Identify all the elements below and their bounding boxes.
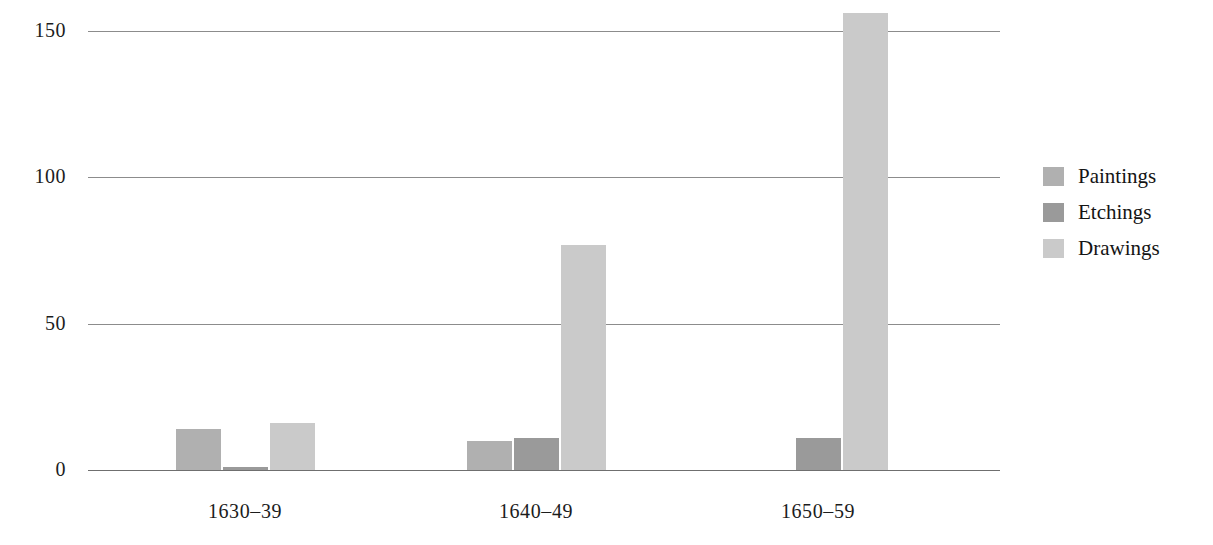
bar (796, 438, 841, 470)
x-axis-tick-label: 1640–49 (436, 500, 636, 522)
x-axis-tick-label: 1630–39 (145, 500, 345, 522)
legend-item-label: Paintings (1078, 166, 1156, 187)
x-axis-tick-label: 1650–59 (718, 500, 918, 522)
plot-area: 050100150 1630–391640–491650–59 (0, 0, 1213, 545)
bar (223, 467, 268, 470)
bar (514, 438, 559, 470)
y-axis-tick-label: 100 (0, 166, 66, 186)
bar (467, 441, 512, 470)
axis-baseline (88, 470, 1000, 471)
legend-item: Etchings (1043, 194, 1160, 230)
legend-item: Paintings (1043, 158, 1160, 194)
bar (270, 423, 315, 470)
legend-item: Drawings (1043, 230, 1160, 266)
bar (843, 13, 888, 470)
legend-swatch-icon (1043, 167, 1064, 186)
legend-swatch-icon (1043, 239, 1064, 258)
bar-chart: 050100150 1630–391640–491650–59 Painting… (0, 0, 1213, 545)
bar (176, 429, 221, 470)
y-axis-tick-label: 150 (0, 20, 66, 40)
y-axis-tick-label: 50 (0, 313, 66, 333)
legend-item-label: Drawings (1078, 238, 1160, 259)
legend-item-label: Etchings (1078, 202, 1152, 223)
y-axis-tick-label: 0 (0, 459, 66, 479)
bar (561, 245, 606, 470)
legend: PaintingsEtchingsDrawings (1043, 158, 1160, 266)
legend-swatch-icon (1043, 203, 1064, 222)
